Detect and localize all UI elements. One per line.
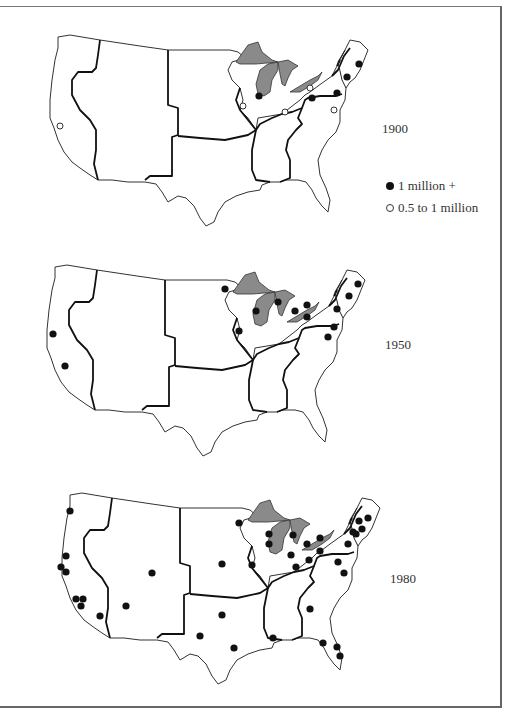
city-marker-1-million-plus xyxy=(235,519,242,526)
city-marker-1-million-plus xyxy=(196,632,203,639)
legend-item-1-million-plus: 1 million + xyxy=(386,175,478,197)
city-marker-1-million-plus xyxy=(221,285,228,292)
city-marker-1-million-plus xyxy=(62,568,69,575)
city-marker-1-million-plus xyxy=(333,89,340,96)
city-marker-1-million-plus xyxy=(255,92,262,99)
city-marker-half-to-one-million xyxy=(282,109,288,115)
city-marker-1-million-plus xyxy=(344,540,351,547)
city-marker-1-million-plus xyxy=(274,298,281,305)
city-marker-1-million-plus xyxy=(269,634,276,641)
city-marker-1-million-plus xyxy=(352,530,359,537)
city-marker-1-million-plus xyxy=(343,73,350,80)
year-label-1980: 1980 xyxy=(390,571,416,587)
city-marker-1-million-plus xyxy=(334,558,341,565)
city-marker-1-million-plus xyxy=(305,556,312,563)
city-marker-1-million-plus xyxy=(355,517,362,524)
legend: 1 million + 0.5 to 1 million xyxy=(386,175,478,219)
city-marker-1-million-plus xyxy=(291,307,298,314)
city-marker-1-million-plus xyxy=(333,643,340,650)
year-label-1950: 1950 xyxy=(385,337,411,353)
city-marker-half-to-one-million xyxy=(331,107,337,113)
city-marker-1-million-plus xyxy=(354,280,361,287)
legend-item-half-to-one-million: 0.5 to 1 million xyxy=(386,197,478,219)
city-marker-1-million-plus xyxy=(333,305,340,312)
city-marker-1-million-plus xyxy=(265,540,272,547)
city-marker-1-million-plus xyxy=(336,652,343,659)
city-marker-1-million-plus xyxy=(364,514,371,521)
city-marker-1-million-plus xyxy=(303,540,310,547)
city-marker-1-million-plus xyxy=(355,60,362,67)
city-marker-1-million-plus xyxy=(340,569,347,576)
city-marker-1-million-plus xyxy=(330,323,337,330)
city-marker-1-million-plus xyxy=(122,602,129,609)
city-marker-1-million-plus xyxy=(235,327,242,334)
city-marker-1-million-plus xyxy=(62,552,69,559)
city-marker-1-million-plus xyxy=(230,644,237,651)
city-marker-1-million-plus xyxy=(148,569,155,576)
city-marker-1-million-plus xyxy=(319,639,326,646)
city-marker-1-million-plus xyxy=(218,611,225,618)
year-label-1900: 1900 xyxy=(382,121,408,137)
city-marker-1-million-plus xyxy=(248,561,255,568)
legend-label-filled: 1 million + xyxy=(398,175,456,197)
city-marker-1-million-plus xyxy=(292,563,299,570)
city-marker-1-million-plus xyxy=(308,94,315,101)
city-marker-1-million-plus xyxy=(316,547,323,554)
map-1900 xyxy=(50,35,368,226)
city-marker-half-to-one-million xyxy=(57,123,63,129)
city-marker-1-million-plus xyxy=(218,560,225,567)
map-1950 xyxy=(47,265,365,456)
filled-circle-icon xyxy=(386,182,394,190)
map-1980 xyxy=(57,493,380,684)
city-marker-1-million-plus xyxy=(79,595,86,602)
open-circle-icon xyxy=(386,204,394,212)
city-marker-1-million-plus xyxy=(358,525,365,532)
city-marker-1-million-plus xyxy=(303,313,310,320)
city-marker-1-million-plus xyxy=(96,612,103,619)
city-marker-1-million-plus xyxy=(77,602,84,609)
city-marker-1-million-plus xyxy=(49,330,56,337)
city-marker-1-million-plus xyxy=(289,531,296,538)
city-marker-1-million-plus xyxy=(265,530,272,537)
city-marker-1-million-plus xyxy=(306,605,313,612)
city-marker-1-million-plus xyxy=(72,595,79,602)
city-marker-1-million-plus xyxy=(252,307,259,314)
city-marker-1-million-plus xyxy=(345,292,352,299)
city-marker-half-to-one-million xyxy=(240,103,246,109)
city-marker-1-million-plus xyxy=(303,301,310,308)
city-marker-1-million-plus xyxy=(324,333,331,340)
city-marker-1-million-plus xyxy=(66,507,73,514)
city-marker-1-million-plus xyxy=(287,551,294,558)
city-marker-1-million-plus xyxy=(61,362,68,369)
legend-label-open: 0.5 to 1 million xyxy=(398,197,478,219)
maps-canvas xyxy=(0,0,510,712)
city-marker-half-to-one-million xyxy=(307,85,313,91)
city-marker-1-million-plus xyxy=(316,534,323,541)
